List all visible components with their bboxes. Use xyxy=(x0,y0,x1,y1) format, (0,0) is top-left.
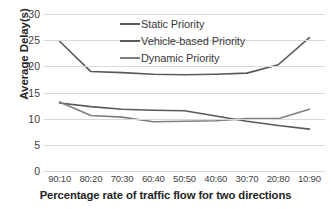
legend-item[interactable]: Static Priority xyxy=(120,15,295,32)
y-tick-label: 15 xyxy=(16,87,40,99)
y-tick-label: 25 xyxy=(16,34,40,46)
x-tick-label: 90:10 xyxy=(48,173,71,184)
x-tick-label: 60:40 xyxy=(142,173,165,184)
x-tick-label: 20:80 xyxy=(267,173,290,184)
y-tick-label: 30 xyxy=(16,8,40,20)
gridline xyxy=(44,119,325,120)
x-tick-label: 80:20 xyxy=(79,173,102,184)
legend-line-icon xyxy=(120,57,140,59)
gridline xyxy=(44,66,325,67)
y-axis-tick-labels: 051015202530 xyxy=(14,0,40,209)
legend-item[interactable]: Vehicle-based Priority xyxy=(120,32,295,49)
chart-legend: Static PriorityVehicle-based PriorityDyn… xyxy=(120,15,295,66)
legend-line-icon xyxy=(120,23,140,25)
x-axis-title: Percentage rate of traffic flow for two … xyxy=(0,189,331,201)
legend-label: Static Priority xyxy=(141,18,204,30)
y-tick-label: 20 xyxy=(16,60,40,72)
legend-item[interactable]: Dynamic Priority xyxy=(120,49,295,66)
y-tick-label: 0 xyxy=(16,165,40,177)
legend-label: Vehicle-based Priority xyxy=(141,35,245,47)
y-tick-label: 5 xyxy=(16,139,40,151)
gridline xyxy=(44,145,325,146)
x-tick-label: 30:70 xyxy=(236,173,259,184)
x-tick-label: 40:60 xyxy=(204,173,227,184)
y-tick-label: 10 xyxy=(16,113,40,125)
gridline xyxy=(44,93,325,94)
x-tick-label: 10:90 xyxy=(298,173,321,184)
x-tick-label: 70:30 xyxy=(111,173,134,184)
x-tick-label: 50:50 xyxy=(173,173,196,184)
legend-line-icon xyxy=(120,40,140,42)
x-axis-tick-labels: 90:1080:2070:3060:4050:5040:6030:7020:80… xyxy=(44,173,325,187)
gridline xyxy=(44,171,325,172)
line-chart: Average Delay(s) 051015202530 90:1080:20… xyxy=(0,0,331,209)
legend-label: Dynamic Priority xyxy=(141,52,219,64)
